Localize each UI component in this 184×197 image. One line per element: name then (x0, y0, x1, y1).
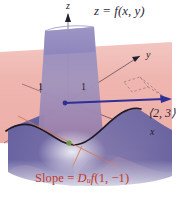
slope-caption: Slope = Duf(1, −1) (35, 172, 129, 185)
z-axis-label: z (66, 1, 70, 11)
tangent-point (66, 140, 71, 145)
slope-caption-argument: (1, −1) (94, 171, 129, 185)
figure-graphics (0, 0, 184, 197)
slope-caption-prefix: Slope = (35, 171, 78, 185)
tick-label-right: 1 (81, 82, 86, 92)
slope-caption-operator: D (78, 171, 87, 185)
y-axis-label: y (146, 50, 150, 60)
vector-origin-dot (63, 101, 68, 106)
tick-label-left: 1 (38, 82, 43, 92)
x-axis-label: x (150, 127, 154, 137)
z-axis-arrowhead (65, 13, 71, 22)
directional-derivative-figure: z = f(x, y) z y x 1 1 ⟨2, 3⟩ Slope = Duf… (0, 0, 184, 197)
vector-component-label: ⟨2, 3⟩ (148, 107, 176, 119)
surface-equation-label: z = f(x, y) (94, 4, 145, 17)
